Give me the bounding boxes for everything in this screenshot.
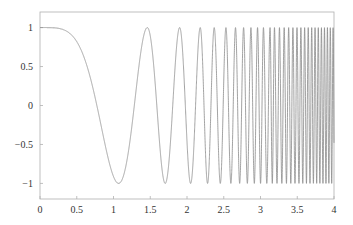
x-tick-label: 2.5 <box>218 204 231 215</box>
y-tick-label: −0.5 <box>15 139 33 150</box>
x-tick-label: 4 <box>332 204 337 215</box>
x-tick-label: 3.5 <box>291 204 304 215</box>
x-tick-label: 3 <box>258 204 263 215</box>
y-tick-label: 0 <box>28 100 33 111</box>
x-tick-label: 1 <box>111 204 116 215</box>
chirp-line-chart: 00.511.522.533.54 10.50−0.5−1 <box>0 0 353 225</box>
x-tick-label: 1.5 <box>144 204 157 215</box>
chirp-series-line <box>40 28 334 184</box>
x-tick-label: 2 <box>185 204 190 215</box>
y-tick-label: 1 <box>28 22 33 33</box>
x-tick-label: 0 <box>38 204 43 215</box>
y-tick-label: −1 <box>22 178 33 189</box>
y-tick-label: 0.5 <box>21 61 34 72</box>
y-axis-ticks: 10.50−0.5−1 <box>15 22 43 189</box>
x-tick-label: 0.5 <box>71 204 84 215</box>
